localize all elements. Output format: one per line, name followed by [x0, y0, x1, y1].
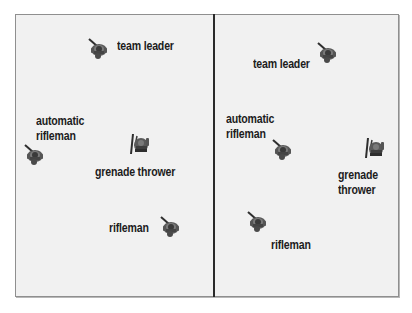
label-line: rifleman: [36, 129, 84, 144]
label-grenade-thrower: grenade thrower: [95, 165, 175, 180]
label-automatic-rifleman: automatic rifleman: [226, 112, 274, 142]
soldier-icon: [270, 138, 294, 162]
label-rifleman: rifleman: [109, 221, 149, 236]
label-team-leader: team leader: [117, 39, 174, 54]
label-line: thrower: [338, 183, 378, 198]
panel-divider: [213, 14, 215, 297]
label-rifleman: rifleman: [271, 238, 311, 253]
figure-frame: [15, 14, 399, 297]
soldier-icon: [158, 215, 182, 239]
soldier-icon: [86, 37, 110, 61]
label-automatic-rifleman: automatic rifleman: [36, 114, 84, 144]
soldier-icon: [127, 132, 151, 156]
soldier-icon: [362, 136, 386, 160]
label-line: automatic: [36, 114, 84, 129]
soldier-icon: [22, 143, 46, 167]
soldier-icon: [245, 210, 269, 234]
label-line: grenade: [338, 168, 378, 183]
soldier-icon: [315, 41, 339, 65]
label-line: rifleman: [226, 127, 274, 142]
label-team-leader: team leader: [253, 57, 310, 72]
label-line: automatic: [226, 112, 274, 127]
label-grenade-thrower: grenade thrower: [338, 168, 378, 198]
